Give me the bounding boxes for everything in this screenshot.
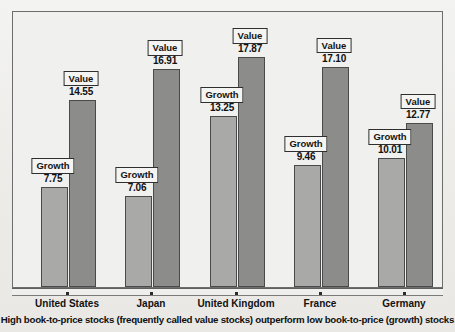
value-label-germany-value: 12.77 (406, 109, 430, 120)
x-axis-label-united-states: United States (35, 298, 99, 309)
chart-caption: High book-to-price stocks (frequently ca… (0, 314, 455, 325)
x-axis-label-united-kingdom: United Kingdom (197, 298, 274, 309)
value-label-france-value: 17.10 (322, 53, 346, 64)
series-badge-germany-value: Value (401, 94, 436, 110)
bar-united-states-growth (41, 187, 68, 287)
bar-france-value (322, 67, 349, 287)
bar-germany-growth (378, 158, 405, 287)
value-label-united-kingdom-growth: 13.25 (210, 102, 234, 113)
series-badge-united-kingdom-growth: Growth (200, 87, 243, 103)
bar-united-states-value (69, 100, 96, 287)
x-tick-japan (150, 292, 153, 295)
value-label-united-states-growth: 7.75 (44, 173, 63, 184)
value-label-united-states-value: 14.55 (69, 86, 93, 97)
x-tick-united-kingdom (235, 292, 238, 295)
x-axis-label-germany: Germany (382, 298, 425, 309)
series-badge-united-states-growth: Growth (31, 158, 74, 174)
value-label-germany-growth: 10.01 (378, 144, 402, 155)
value-label-united-kingdom-value: 17.87 (238, 43, 262, 54)
x-axis-label-france: France (304, 298, 337, 309)
value-label-france-growth: 9.46 (297, 151, 316, 162)
bar-japan-growth (125, 196, 152, 287)
series-badge-japan-value: Value (148, 40, 183, 56)
value-label-japan-growth: 7.06 (128, 182, 147, 193)
series-badge-united-states-value: Value (64, 71, 99, 87)
x-tick-united-states (66, 292, 69, 295)
chart-figure: High book-to-price stocks (frequently ca… (0, 0, 455, 332)
x-axis (12, 288, 443, 296)
series-badge-france-growth: Growth (284, 136, 327, 152)
x-tick-france (319, 292, 322, 295)
series-badge-germany-growth: Growth (368, 129, 411, 145)
x-axis-label-japan: Japan (137, 298, 166, 309)
value-label-japan-value: 16.91 (153, 55, 177, 66)
bar-united-kingdom-growth (210, 116, 237, 287)
series-badge-france-value: Value (317, 38, 352, 54)
series-badge-united-kingdom-value: Value (233, 28, 268, 44)
x-tick-germany (403, 292, 406, 295)
series-badge-japan-growth: Growth (115, 167, 158, 183)
bar-france-growth (294, 165, 321, 287)
bar-germany-value (406, 123, 433, 287)
